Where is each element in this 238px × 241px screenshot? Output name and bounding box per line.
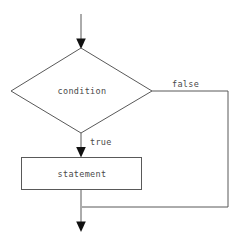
true-branch-arrowhead-icon: [76, 147, 86, 158]
process-label: statement: [58, 169, 107, 179]
decision-node[interactable]: condition: [11, 48, 152, 133]
edge-entry: [76, 14, 86, 49]
process-node[interactable]: statement: [22, 158, 142, 190]
flowchart-canvas: condition false true statement: [0, 0, 238, 241]
flowchart-svg: condition false true statement: [0, 0, 238, 241]
true-branch-label: true: [90, 137, 112, 147]
exit-arrowhead-icon: [76, 222, 86, 233]
edge-true-branch: true: [76, 133, 111, 158]
false-branch-label: false: [172, 79, 199, 89]
decision-label: condition: [58, 86, 107, 96]
edge-exit: [76, 190, 86, 233]
